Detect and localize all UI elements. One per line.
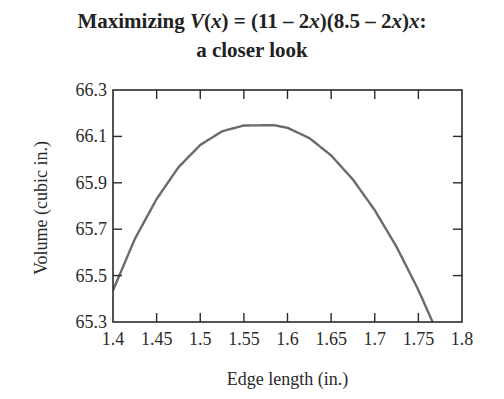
y-tick-label: 66.1 <box>76 126 108 146</box>
x-tick-label: 1.4 <box>102 329 125 349</box>
y-tick-label: 65.3 <box>76 312 108 332</box>
y-tick-label: 66.3 <box>76 80 108 100</box>
y-tick-label: 65.9 <box>76 173 108 193</box>
x-tick-label: 1.6 <box>276 329 299 349</box>
x-axis-label: Edge length (in.) <box>227 369 348 390</box>
x-tick-label: 1.55 <box>228 329 260 349</box>
y-tick-label: 65.5 <box>76 266 108 286</box>
x-tick-label: 1.65 <box>315 329 347 349</box>
y-axis-label: Volume (cubic in.) <box>31 141 52 275</box>
x-tick-label: 1.8 <box>451 329 474 349</box>
x-tick-label: 1.45 <box>141 329 173 349</box>
plot-frame <box>113 90 462 322</box>
x-tick-label: 1.75 <box>403 329 435 349</box>
x-tick-label: 1.5 <box>189 329 212 349</box>
plot-area: 1.41.451.51.551.61.651.71.751.865.365.56… <box>31 80 473 392</box>
y-tick-label: 65.7 <box>76 219 108 239</box>
x-tick-label: 1.7 <box>364 329 387 349</box>
chart-svg: 1.41.451.51.551.61.651.71.751.865.365.56… <box>0 0 504 399</box>
data-curve <box>113 125 462 392</box>
